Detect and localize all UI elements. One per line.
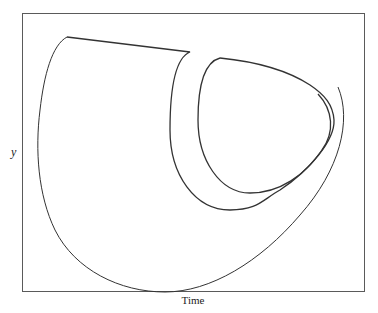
- trajectory-plot: [0, 0, 378, 313]
- y-axis-label: y: [11, 145, 16, 160]
- trajectory-inner-loop: [198, 58, 331, 193]
- trajectory-figure: y Time: [0, 0, 378, 313]
- trajectory-middle-loop: [67, 37, 334, 210]
- trajectory-outer-sweep: [38, 37, 344, 292]
- x-axis-label: Time: [0, 294, 378, 306]
